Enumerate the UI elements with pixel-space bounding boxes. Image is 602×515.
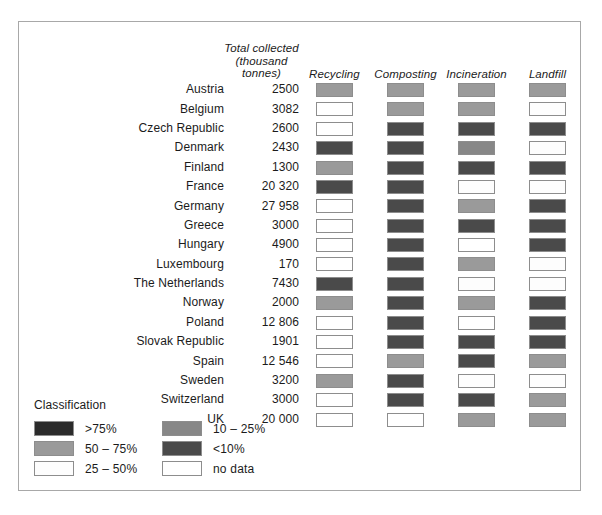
table-row: Germany27 958 bbox=[19, 196, 583, 215]
cell-composting bbox=[370, 118, 441, 137]
cell-incineration bbox=[441, 99, 512, 118]
country-label: Hungary bbox=[19, 235, 224, 254]
classification-swatch bbox=[316, 238, 353, 252]
cell-landfill bbox=[512, 80, 583, 99]
classification-swatch bbox=[529, 354, 566, 368]
country-label: Poland bbox=[19, 312, 224, 331]
cell-incineration bbox=[441, 254, 512, 273]
classification-swatch bbox=[458, 296, 495, 310]
cell-landfill bbox=[512, 215, 583, 234]
cell-incineration bbox=[441, 118, 512, 137]
classification-swatch bbox=[458, 257, 495, 271]
cell-composting bbox=[370, 351, 441, 370]
classification-swatch bbox=[529, 316, 566, 330]
cell-composting bbox=[370, 312, 441, 331]
cell-landfill bbox=[512, 409, 583, 428]
legend-label: 25 – 50% bbox=[85, 462, 137, 476]
classification-swatch bbox=[316, 374, 353, 388]
cell-composting bbox=[370, 80, 441, 99]
cell-incineration bbox=[441, 138, 512, 157]
legend-swatch bbox=[34, 441, 74, 456]
classification-swatch bbox=[458, 238, 495, 252]
cell-landfill bbox=[512, 235, 583, 254]
total-collected-value: 20 320 bbox=[224, 176, 299, 195]
classification-swatch bbox=[387, 102, 424, 116]
cell-recycling bbox=[299, 273, 370, 292]
cell-landfill bbox=[512, 273, 583, 292]
table-row: Austria2500 bbox=[19, 80, 583, 99]
cell-landfill bbox=[512, 99, 583, 118]
classification-swatch bbox=[387, 335, 424, 349]
table-row: Luxembourg170 bbox=[19, 254, 583, 273]
cell-incineration bbox=[441, 176, 512, 195]
cell-composting bbox=[370, 254, 441, 273]
cell-recycling bbox=[299, 254, 370, 273]
classification-swatch bbox=[316, 102, 353, 116]
total-collected-value: 170 bbox=[224, 254, 299, 273]
cell-composting bbox=[370, 273, 441, 292]
classification-swatch bbox=[458, 102, 495, 116]
classification-swatch bbox=[529, 219, 566, 233]
classification-swatch bbox=[458, 141, 495, 155]
country-label: France bbox=[19, 176, 224, 195]
cell-recycling bbox=[299, 370, 370, 389]
classification-swatch bbox=[316, 277, 353, 291]
classification-swatch bbox=[458, 413, 495, 427]
cell-composting bbox=[370, 215, 441, 234]
table-row: France20 320 bbox=[19, 176, 583, 195]
classification-swatch bbox=[387, 316, 424, 330]
classification-swatch bbox=[458, 180, 495, 194]
total-collected-value: 2600 bbox=[224, 118, 299, 137]
column-header-country bbox=[19, 42, 224, 80]
country-label: The Netherlands bbox=[19, 273, 224, 292]
total-collected-value: 3200 bbox=[224, 370, 299, 389]
column-header-landfill: Landfill bbox=[512, 42, 583, 80]
legend-label: 50 – 75% bbox=[85, 442, 137, 456]
table-row: Sweden3200 bbox=[19, 370, 583, 389]
table-row: Hungary4900 bbox=[19, 235, 583, 254]
classification-swatch bbox=[529, 413, 566, 427]
legend-swatch bbox=[162, 461, 202, 476]
classification-swatch bbox=[458, 122, 495, 136]
cell-recycling bbox=[299, 176, 370, 195]
total-collected-line1: Total collected bbox=[224, 42, 299, 55]
table-row: Belgium3082 bbox=[19, 99, 583, 118]
legend-swatch bbox=[162, 441, 202, 456]
classification-swatch bbox=[529, 277, 566, 291]
table-row: Finland1300 bbox=[19, 157, 583, 176]
cell-composting bbox=[370, 138, 441, 157]
total-collected-value: 3000 bbox=[224, 215, 299, 234]
classification-swatch bbox=[458, 393, 495, 407]
total-collected-value: 3082 bbox=[224, 99, 299, 118]
legend-swatch bbox=[34, 461, 74, 476]
total-collected-value: 27 958 bbox=[224, 196, 299, 215]
classification-swatch bbox=[458, 354, 495, 368]
classification-swatch bbox=[387, 413, 424, 427]
country-label: Spain bbox=[19, 351, 224, 370]
cell-incineration bbox=[441, 293, 512, 312]
legend-label: no data bbox=[213, 462, 254, 476]
table-row: Denmark2430 bbox=[19, 138, 583, 157]
classification-swatch bbox=[316, 296, 353, 310]
classification-swatch bbox=[387, 257, 424, 271]
classification-swatch bbox=[316, 257, 353, 271]
country-label: Norway bbox=[19, 293, 224, 312]
cell-landfill bbox=[512, 254, 583, 273]
legend-item-lt10: <10% bbox=[162, 441, 334, 456]
total-collected-line2: (thousand tonnes) bbox=[224, 55, 299, 80]
country-label: Slovak Republic bbox=[19, 332, 224, 351]
legend-item-p50_75: 50 – 75% bbox=[34, 441, 162, 456]
classification-swatch bbox=[458, 219, 495, 233]
classification-swatch bbox=[316, 83, 353, 97]
classification-swatch bbox=[387, 161, 424, 175]
classification-swatch bbox=[387, 83, 424, 97]
cell-composting bbox=[370, 235, 441, 254]
cell-recycling bbox=[299, 138, 370, 157]
classification-swatch bbox=[316, 199, 353, 213]
classification-swatch bbox=[529, 257, 566, 271]
classification-swatch bbox=[387, 180, 424, 194]
total-collected-value: 1901 bbox=[224, 332, 299, 351]
waste-data-table: Total collected (thousand tonnes) Recycl… bbox=[19, 22, 583, 429]
classification-swatch bbox=[458, 316, 495, 330]
total-collected-value: 12 806 bbox=[224, 312, 299, 331]
